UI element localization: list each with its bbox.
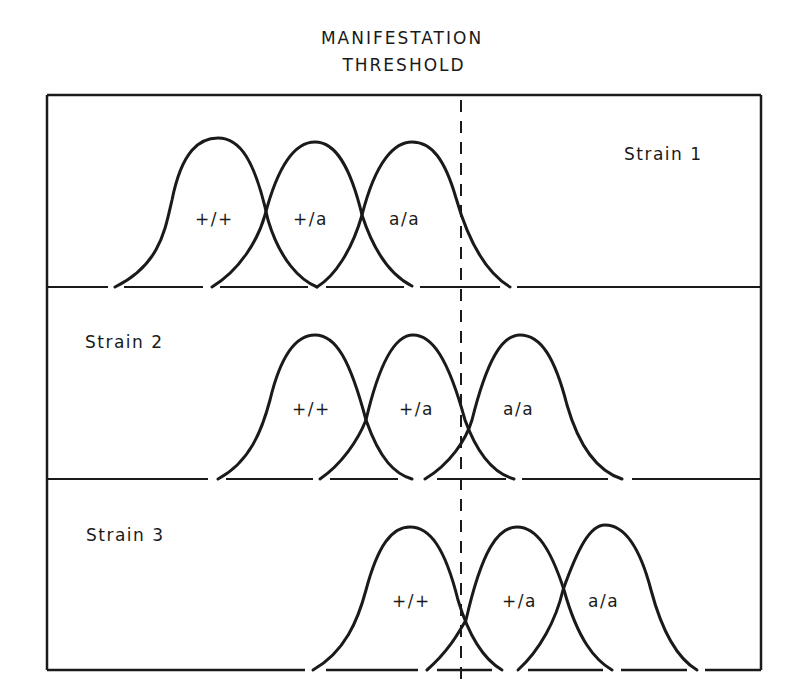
label-strain-1-homozygous: a/a <box>389 209 420 229</box>
panel-strain-3: +/+ +/a a/a Strain 3 <box>47 525 761 670</box>
label-strain-2-het: +/a <box>399 399 434 419</box>
label-strain-2-wildtype: +/+ <box>292 399 331 419</box>
panel-strain-1: +/+ +/a a/a Strain 1 <box>47 138 761 287</box>
strain-3-label: Strain 3 <box>86 525 165 545</box>
frame <box>47 95 761 670</box>
panel-strain-2: +/+ +/a a/a Strain 2 <box>47 332 761 479</box>
label-strain-2-homozygous: a/a <box>503 399 534 419</box>
label-strain-3-wildtype: +/+ <box>392 591 431 611</box>
threshold-diagram: +/+ +/a a/a Strain 1 +/+ +/a a/a Strain … <box>0 0 804 700</box>
label-strain-1-het: +/a <box>293 209 328 229</box>
label-strain-3-het: +/a <box>502 591 537 611</box>
strain-1-label: Strain 1 <box>624 144 703 164</box>
label-strain-3-homozygous: a/a <box>588 591 619 611</box>
strain-2-label: Strain 2 <box>85 332 164 352</box>
label-strain-1-wildtype: +/+ <box>195 209 234 229</box>
